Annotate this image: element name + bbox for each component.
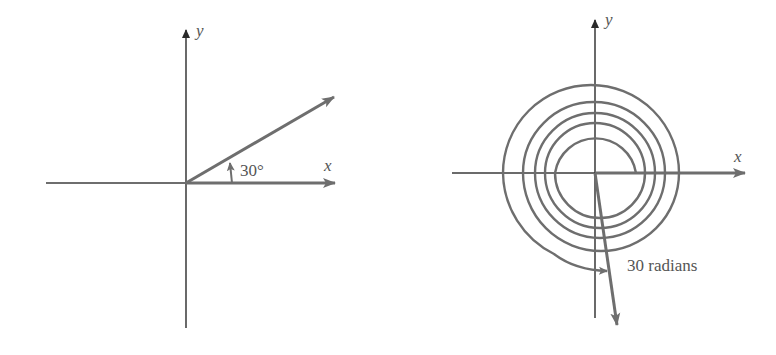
rotation-spiral [503, 85, 679, 271]
angle-label-30-degrees: 30° [240, 161, 264, 180]
angle-arc-arrow-icon [230, 163, 232, 183]
left-diagram-30-degrees: 30° x y [46, 21, 335, 328]
angle-comparison-figure: 30° x y 30 radians x y [0, 0, 776, 355]
angle-label-30-radians: 30 radians [627, 256, 697, 275]
right-y-axis-label: y [603, 10, 613, 29]
right-x-axis-label: x [733, 147, 742, 166]
right-diagram-30-radians: 30 radians x y [452, 10, 745, 325]
left-y-axis-label: y [194, 21, 204, 40]
left-x-axis-label: x [323, 156, 332, 175]
figure-canvas: 30° x y 30 radians x y [0, 0, 776, 355]
